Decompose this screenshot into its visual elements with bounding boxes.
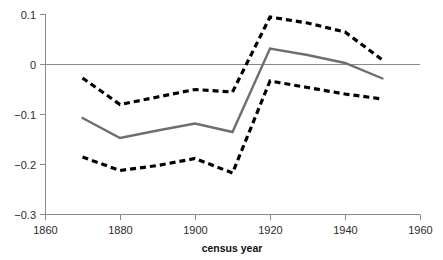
y-tick-label: −0.3: [14, 209, 36, 221]
y-tick-label: 0.1: [21, 9, 36, 21]
y-tick-label: −0.1: [14, 109, 36, 121]
x-axis-title: census year: [202, 242, 263, 254]
x-tick-label: 1860: [33, 224, 57, 236]
x-tick-label: 1920: [258, 224, 282, 236]
y-tick-label: 0: [30, 59, 36, 71]
x-tick-label: 1900: [183, 224, 207, 236]
x-tick-label: 1880: [108, 224, 132, 236]
chart-container: 0.10−0.1−0.2−0.3 18601880190019201940196…: [0, 0, 443, 260]
y-tick-label: −0.2: [14, 159, 36, 171]
x-tick-label: 1940: [333, 224, 357, 236]
x-tick-label: 1960: [408, 224, 432, 236]
line-chart: 0.10−0.1−0.2−0.3 18601880190019201940196…: [0, 0, 443, 260]
